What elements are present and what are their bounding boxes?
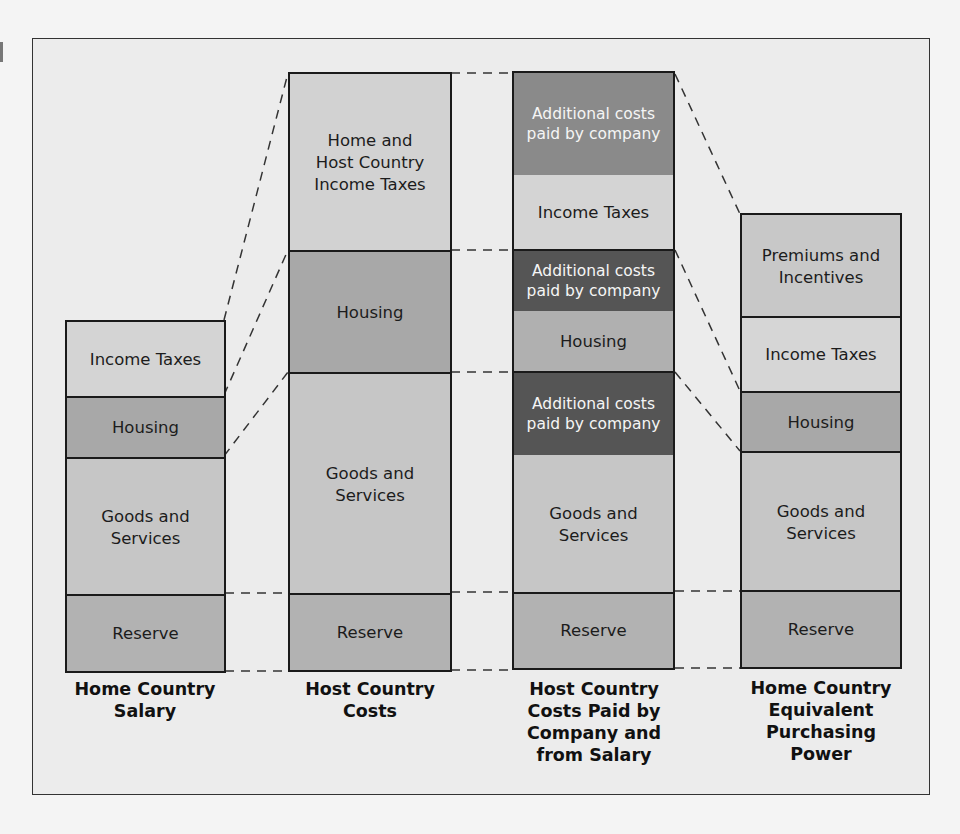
segment-reserve: Reserve: [514, 592, 673, 668]
column-host-country-costs: Home and Host Country Income Taxes Housi…: [288, 72, 452, 672]
segment-additional-costs-company-lower: Additional costs paid by company: [514, 371, 673, 455]
segment-reserve: Reserve: [742, 590, 900, 667]
segment-housing: Housing: [67, 396, 224, 458]
segment-goods-and-services: Goods and Services: [67, 457, 224, 596]
segment-goods-and-services: Goods and Services: [290, 372, 450, 595]
segment-income-taxes: Income Taxes: [514, 175, 673, 250]
segment-housing: Housing: [290, 250, 450, 373]
segment-premiums-and-incentives: Premiums and Incentives: [742, 215, 900, 318]
segment-additional-costs-company-middle: Additional costs paid by company: [514, 249, 673, 311]
segment-home-and-host-income-taxes: Home and Host Country Income Taxes: [290, 74, 450, 251]
column-label-home-country-salary: Home Country Salary: [55, 678, 235, 722]
column-label-home-country-equivalent-purchasing-power: Home Country Equivalent Purchasing Power: [731, 677, 911, 765]
segment-income-taxes: Income Taxes: [742, 316, 900, 392]
segment-income-taxes: Income Taxes: [67, 322, 224, 397]
segment-goods-and-services: Goods and Services: [742, 451, 900, 592]
segment-housing: Housing: [742, 391, 900, 453]
segment-goods-and-services: Goods and Services: [514, 455, 673, 594]
segment-housing: Housing: [514, 311, 673, 372]
segment-additional-costs-company-top: Additional costs paid by company: [514, 73, 673, 175]
column-label-host-country-costs-paid: Host Country Costs Paid by Company and f…: [504, 678, 684, 766]
column-host-country-costs-paid: Additional costs paid by company Income …: [512, 71, 675, 670]
segment-reserve: Reserve: [67, 594, 224, 671]
column-label-host-country-costs: Host Country Costs: [280, 678, 460, 722]
column-home-country-equivalent-purchasing-power: Premiums and Incentives Income Taxes Hou…: [740, 213, 902, 669]
column-home-country-salary: Income Taxes Housing Goods and Services …: [65, 320, 226, 673]
segment-reserve: Reserve: [290, 593, 450, 670]
